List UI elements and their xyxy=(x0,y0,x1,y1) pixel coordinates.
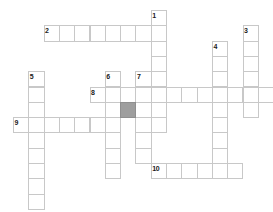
crossword-cell[interactable] xyxy=(212,41,228,57)
crossword-cell[interactable] xyxy=(212,87,228,103)
crossword-cell[interactable] xyxy=(105,148,121,164)
crossword-cell[interactable] xyxy=(243,25,259,41)
crossword-cell[interactable] xyxy=(105,71,121,87)
crossword-cell[interactable] xyxy=(105,117,121,133)
crossword-cell[interactable] xyxy=(243,41,259,57)
crossword-cell[interactable] xyxy=(181,163,197,179)
crossword-cell[interactable] xyxy=(135,117,151,133)
crossword-cell[interactable] xyxy=(227,87,243,103)
crossword-cell[interactable] xyxy=(212,56,228,72)
crossword-cell[interactable] xyxy=(135,148,151,164)
crossword-cell[interactable] xyxy=(151,56,167,72)
crossword-cell[interactable] xyxy=(105,25,121,41)
crossword-cell[interactable] xyxy=(212,163,228,179)
crossword-cell[interactable] xyxy=(227,163,243,179)
crossword-cell[interactable] xyxy=(28,148,44,164)
crossword-cell[interactable] xyxy=(135,132,151,148)
crossword-cell[interactable] xyxy=(243,71,259,87)
crossword-cell[interactable] xyxy=(13,117,29,133)
crossword-cell[interactable] xyxy=(151,25,167,41)
crossword-cell[interactable] xyxy=(243,87,259,103)
crossword-cell[interactable] xyxy=(151,163,167,179)
crossword-cell[interactable] xyxy=(135,102,151,118)
crossword-cell[interactable] xyxy=(151,87,167,103)
crossword-board[interactable]: 12345678910 xyxy=(0,0,273,212)
crossword-cell[interactable] xyxy=(181,87,197,103)
crossword-cell[interactable] xyxy=(151,41,167,57)
crossword-cell[interactable] xyxy=(212,71,228,87)
crossword-cell[interactable] xyxy=(44,25,60,41)
crossword-cell[interactable] xyxy=(28,178,44,194)
crossword-cell[interactable] xyxy=(135,25,151,41)
crossword-cell[interactable] xyxy=(135,87,151,103)
crossword-cell[interactable] xyxy=(151,102,167,118)
crossword-cell[interactable] xyxy=(258,87,273,103)
crossword-cell[interactable] xyxy=(59,25,75,41)
crossword-cell[interactable] xyxy=(135,71,151,87)
crossword-cell[interactable] xyxy=(166,163,182,179)
crossword-cell[interactable] xyxy=(28,102,44,118)
crossword-cell[interactable] xyxy=(212,117,228,133)
crossword-cell[interactable] xyxy=(151,117,167,133)
crossword-cell[interactable] xyxy=(197,163,213,179)
crossword-cell[interactable] xyxy=(197,87,213,103)
crossword-cell[interactable] xyxy=(243,56,259,72)
crossword-blocked-cell xyxy=(120,102,136,118)
crossword-cell[interactable] xyxy=(151,71,167,87)
crossword-cell[interactable] xyxy=(90,87,106,103)
crossword-cell[interactable] xyxy=(28,117,44,133)
crossword-cell[interactable] xyxy=(44,117,60,133)
crossword-cell[interactable] xyxy=(74,25,90,41)
crossword-cell[interactable] xyxy=(90,25,106,41)
crossword-cell[interactable] xyxy=(90,117,106,133)
crossword-cell[interactable] xyxy=(151,10,167,26)
crossword-cell[interactable] xyxy=(28,71,44,87)
crossword-cell[interactable] xyxy=(59,117,75,133)
crossword-cell[interactable] xyxy=(28,87,44,103)
crossword-cell[interactable] xyxy=(105,163,121,179)
crossword-cell[interactable] xyxy=(212,148,228,164)
crossword-cell[interactable] xyxy=(243,102,259,118)
crossword-cell[interactable] xyxy=(28,132,44,148)
crossword-cell[interactable] xyxy=(105,132,121,148)
crossword-cell[interactable] xyxy=(28,163,44,179)
crossword-cell[interactable] xyxy=(120,25,136,41)
crossword-cell[interactable] xyxy=(28,194,44,210)
crossword-cell[interactable] xyxy=(212,102,228,118)
crossword-cell[interactable] xyxy=(166,87,182,103)
crossword-cell[interactable] xyxy=(105,102,121,118)
crossword-cell[interactable] xyxy=(105,87,121,103)
crossword-cell[interactable] xyxy=(212,132,228,148)
crossword-cell[interactable] xyxy=(120,87,136,103)
crossword-cell[interactable] xyxy=(74,117,90,133)
